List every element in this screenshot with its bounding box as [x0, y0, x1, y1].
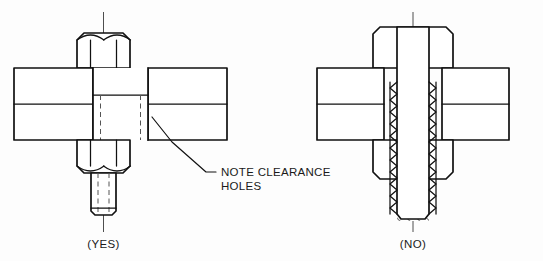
upper-plate-section-right: [442, 68, 509, 140]
note-clearance-line-2: HOLES: [221, 180, 262, 192]
upper-plate-section-left: [14, 68, 93, 140]
threaded-bolt-shank: [390, 24, 436, 224]
bolt-threaded-end: [91, 173, 116, 215]
panel-left-yes: (YES): [14, 12, 227, 250]
panel-right-caption: (NO): [400, 238, 427, 250]
upper-plate-section-left: [317, 68, 384, 140]
hex-nut-top: [77, 33, 131, 68]
technical-drawing-figure: (YES) NOTE CLEARANCE HOLES: [0, 0, 543, 261]
bolt-shank: [93, 68, 148, 140]
hex-nut-bottom: [77, 140, 131, 173]
drawing-canvas: (YES) NOTE CLEARANCE HOLES: [0, 0, 543, 261]
upper-plate-section-right: [148, 68, 227, 140]
panel-right-no: (NO): [317, 12, 509, 250]
panel-left-caption: (YES): [87, 238, 120, 250]
note-clearance-line-1: NOTE CLEARANCE: [221, 166, 331, 178]
